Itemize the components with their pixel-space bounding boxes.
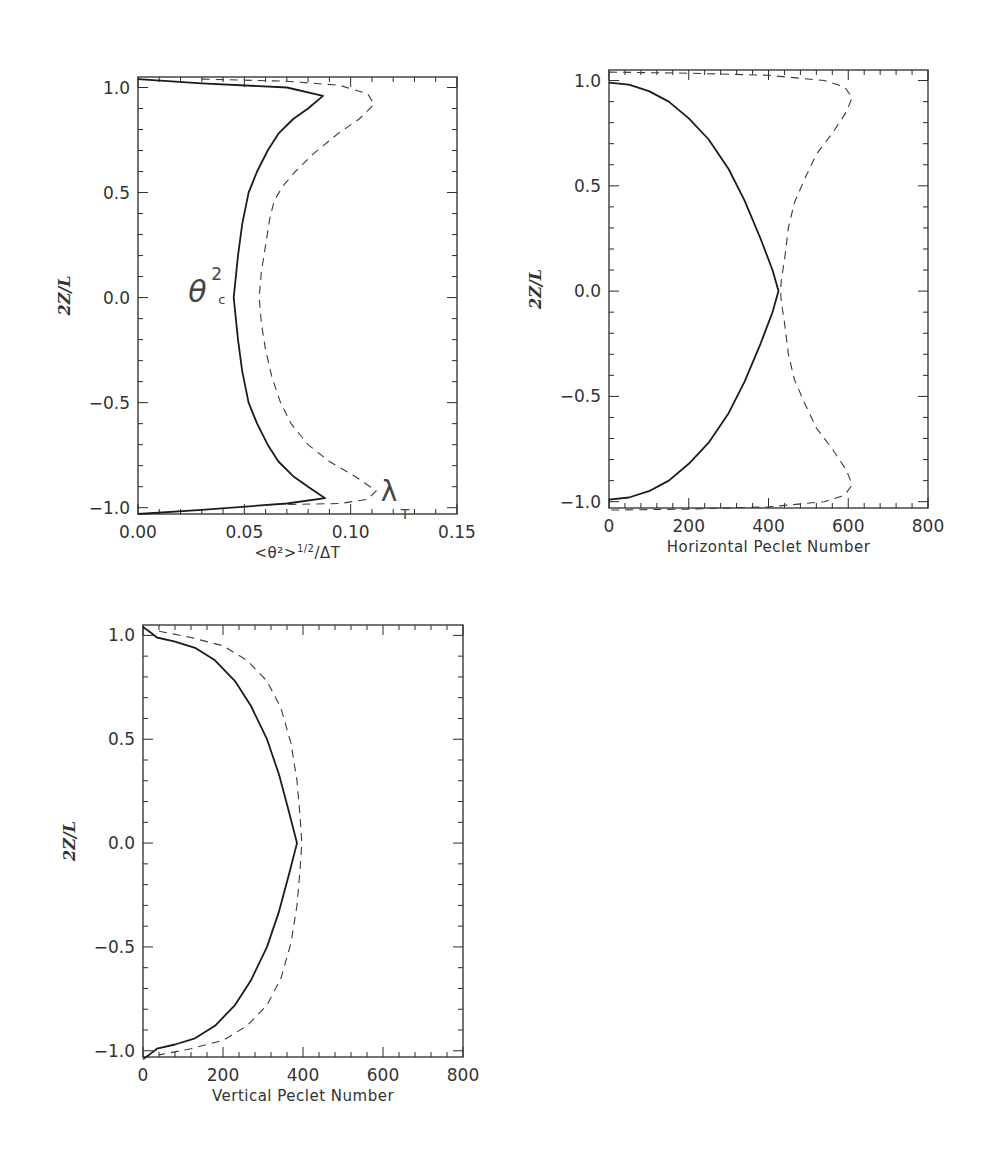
y-tick-label: −0.5 [94,937,135,957]
series-line-solid [609,83,779,500]
annotation-lambda-sub: T [400,506,410,522]
x-tick-label: 0 [138,1065,149,1085]
y-tick-label: 1.0 [108,625,135,645]
y-tick-label: 1.0 [574,71,601,91]
y-tick-label: −0.5 [560,386,601,406]
x-tick-label: 600 [832,516,864,536]
x-tick-labels: 0200400600800 [138,1065,480,1085]
x-tick-labels: 0200400600800 [604,516,945,536]
y-tick-label: 1.0 [103,78,130,98]
y-tick-label: 0.5 [103,183,130,203]
series-line-dashed [202,79,376,504]
y-tick-label: −0.5 [89,393,130,413]
y-tick-label: 0.5 [574,176,601,196]
x-tick-label: 0.10 [332,522,370,542]
annotation-lambda: λ [381,475,398,508]
axis-ticks [138,77,457,514]
figure: 0.000.050.100.15 −1.0−0.50.00.51.0 <θ²>1… [0,0,992,1155]
x-tick-label: 400 [287,1065,319,1085]
x-tick-label: 0.15 [438,522,476,542]
y-tick-labels: −1.0−0.50.00.51.0 [560,71,601,512]
x-tick-label: 200 [673,516,705,536]
x-tick-label: 600 [367,1065,399,1085]
x-axis-label-sup: 1/2 [297,543,315,554]
y-tick-label: −1.0 [89,498,130,518]
series-line-dashed [159,631,302,1055]
annotation-theta-sup: 2 [211,264,222,284]
plot-frame [143,625,463,1057]
series-line-solid [143,627,297,1059]
series-group [138,79,376,514]
series-line-dashed [609,72,852,510]
series-group [143,627,302,1059]
y-axis-label: 2Z/L [55,276,74,317]
y-tick-label: −1.0 [94,1041,135,1061]
y-tick-labels: −1.0−0.50.00.51.0 [89,78,130,518]
plot-frame [609,70,928,508]
x-tick-label: 0 [604,516,615,536]
panel-vertical-peclet: 0200400600800 −1.0−0.50.00.51.0 Vertical… [60,625,479,1105]
panel-theta-fluctuation: 0.000.050.100.15 −1.0−0.50.00.51.0 <θ²>1… [55,77,476,562]
y-tick-label: 0.0 [108,833,135,853]
axis-ticks [143,625,463,1057]
y-tick-label: 0.0 [574,281,601,301]
plot-frame [138,77,457,514]
y-tick-label: −1.0 [560,492,601,512]
series-line-solid [138,79,325,514]
annotation-theta: θ [188,274,206,309]
y-tick-labels: −1.0−0.50.00.51.0 [94,625,135,1060]
x-tick-labels: 0.000.050.100.15 [119,522,476,542]
x-tick-label: 800 [912,516,944,536]
x-axis-label-tail: /ΔT [314,544,340,562]
x-tick-label: 800 [447,1065,479,1085]
x-tick-label: 200 [207,1065,239,1085]
annotations: θ 2 c λ T [188,264,410,523]
y-axis-label: 2Z/L [526,269,545,310]
y-tick-label: 0.0 [103,288,130,308]
x-axis-label: Horizontal Peclet Number [667,538,871,556]
series-group [609,72,852,510]
axis-ticks [609,70,928,508]
x-axis-label: Vertical Peclet Number [212,1087,395,1105]
x-tick-label: 400 [752,516,784,536]
y-tick-label: 0.5 [108,729,135,749]
panel-horizontal-peclet: 0200400600800 −1.0−0.50.00.51.0 Horizont… [526,70,944,556]
y-axis-label: 2Z/L [60,821,79,862]
annotation-theta-sub: c [218,292,225,307]
x-axis-label: <θ²>1/2/ΔT [255,543,341,562]
x-tick-label: 0.00 [119,522,157,542]
x-tick-label: 0.05 [225,522,263,542]
x-axis-label-main: <θ²> [255,544,297,562]
